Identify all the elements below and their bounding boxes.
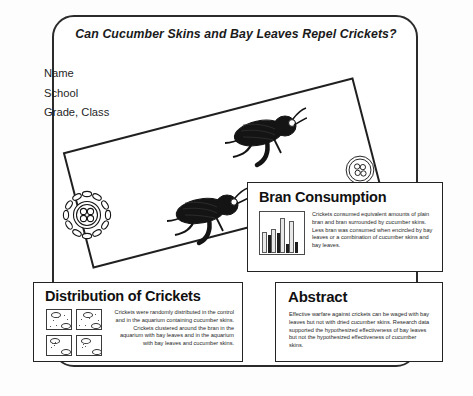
panel-body-abstract: Effective warfare against crickets can b…	[289, 311, 431, 350]
panel-bran-consumption: Bran Consumption Crickets consumed equiv…	[247, 182, 443, 272]
panel-abstract: Abstract Effective warfare against crick…	[275, 282, 443, 362]
bran-consumption-chart	[259, 211, 305, 255]
science-fair-poster: Can Cucumber Skins and Bay Leaves Repel …	[0, 0, 473, 396]
panel-distribution-of-crickets: Distribution of Crickets	[33, 282, 243, 362]
cricket-icon	[165, 185, 249, 247]
panel-title-abstract: Abstract	[288, 288, 347, 305]
aquarium-icon	[46, 335, 72, 356]
aquarium-icon	[76, 335, 102, 356]
bar	[262, 232, 267, 253]
panel-title-bran-consumption: Bran Consumption	[259, 189, 386, 205]
panel-title-distribution-of-crickets: Distribution of Crickets	[45, 288, 201, 304]
bar-group	[289, 221, 298, 253]
bar-group	[271, 229, 280, 253]
student-name: Name	[44, 64, 109, 84]
bar-group	[280, 218, 289, 253]
page-title: Can Cucumber Skins and Bay Leaves Repel …	[60, 27, 412, 41]
aquarium-icon	[46, 309, 72, 330]
panel-body-bran-consumption: Crickets consumed equivalent amounts of …	[312, 211, 434, 250]
chart-bars	[262, 213, 304, 253]
bar	[289, 221, 294, 253]
panel-body-distribution-of-crickets: Crickets were randomly distributed in th…	[110, 309, 234, 348]
aquarium-icon	[76, 309, 102, 330]
cricket-icon	[223, 107, 307, 169]
bran-encircled-by-bay-leaves-icon	[61, 189, 113, 245]
bar-group	[262, 232, 271, 253]
aquarium-diagram-grid	[46, 309, 103, 356]
bar	[271, 229, 276, 253]
bar	[295, 242, 298, 253]
bar	[280, 218, 285, 253]
